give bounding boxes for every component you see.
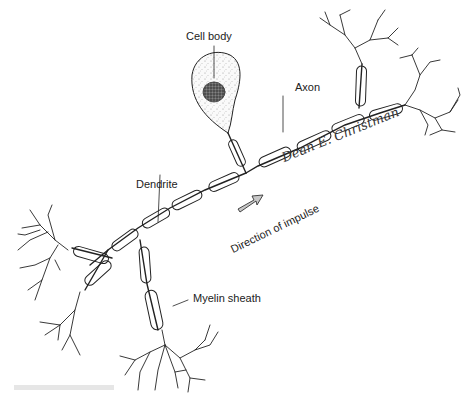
neuron-diagram (0, 0, 471, 399)
direction-arrow-icon (238, 195, 263, 212)
dendritic-tree-upper-right (320, 10, 398, 64)
label-dendrite: Dendrite (136, 178, 178, 190)
label-myelin-sheath: Myelin sheath (193, 292, 261, 304)
label-cell-body: Cell body (186, 30, 232, 42)
cell-body (192, 46, 240, 133)
dendritic-tree-left (18, 205, 80, 355)
label-axon: Axon (295, 81, 320, 93)
dendritic-tree-bottom (120, 325, 218, 392)
myelin-sheaths-dendrite (72, 171, 240, 331)
figure-caption (14, 385, 114, 390)
dendritic-tree-right (400, 48, 460, 135)
